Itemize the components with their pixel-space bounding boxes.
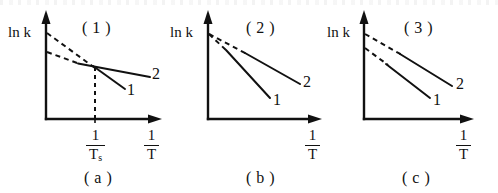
- arrhenius-plot-figure: ln k ( 1 ) 1 2 1 Ts 1 T ( a ): [0, 0, 498, 193]
- y-axis-arrowhead: [204, 10, 213, 24]
- panel-title: ( 2 ): [246, 20, 275, 36]
- x-axis-label-numerator: 1: [457, 128, 471, 144]
- y-axis-arrowhead: [360, 10, 369, 24]
- y-axis-label: ln k: [8, 25, 31, 40]
- curve-label-2: 2: [303, 74, 311, 90]
- x-axis-arrowhead: [148, 115, 162, 124]
- x-axis-label-denominator: T: [305, 147, 320, 163]
- curve-1-dashed-segment: [47, 33, 95, 68]
- curve-label-1: 1: [127, 82, 135, 98]
- x-axis-label: 1 T: [456, 128, 471, 163]
- curve-1-dashed-segment: [365, 48, 388, 65]
- curve-label-1: 1: [273, 92, 281, 108]
- x-axis-label-numerator: 1: [145, 128, 159, 144]
- y-axis-label: ln k: [327, 25, 350, 40]
- panel-title: ( 1 ): [82, 20, 111, 36]
- curve-2-dashed-segment: [365, 34, 402, 55]
- panel-b: ln k ( 2 ) 1 2 1 T ( b ): [162, 0, 328, 193]
- y-axis-arrowhead: [42, 10, 51, 24]
- curve-label-2: 2: [456, 76, 464, 92]
- x-tick-label-ts-numerator: 1: [89, 128, 103, 144]
- x-axis-arrowhead: [460, 115, 474, 124]
- x-tick-label-ts-subscript: s: [98, 152, 102, 163]
- x-axis-label-denominator: T: [456, 147, 471, 163]
- panel-subcaption: ( a ): [84, 170, 112, 186]
- panel-subcaption: ( c ): [402, 170, 430, 186]
- curve-1-solid-segment: [226, 50, 270, 98]
- x-axis-label-denominator: T: [144, 147, 159, 163]
- x-tick-label-ts-denominator: Ts: [86, 147, 105, 163]
- curve-2-dashed-segment: [47, 52, 80, 64]
- panel-c: ln k ( 3 ) 1 2 1 T ( c ): [322, 0, 488, 193]
- x-tick-label-ts: 1 Ts: [86, 128, 105, 163]
- x-axis-label: 1 T: [144, 128, 159, 163]
- x-axis-label-numerator: 1: [306, 128, 320, 144]
- curve-label-2: 2: [152, 66, 160, 82]
- panel-title: ( 3 ): [404, 20, 433, 36]
- x-axis-label: 1 T: [305, 128, 320, 163]
- panel-subcaption: ( b ): [246, 170, 275, 186]
- curve-label-1: 1: [433, 92, 441, 108]
- x-axis-arrowhead: [308, 115, 322, 124]
- panel-a: ln k ( 1 ) 1 2 1 Ts 1 T ( a ): [0, 0, 166, 193]
- y-axis-label: ln k: [170, 25, 193, 40]
- curve-2-solid-segment: [78, 64, 150, 78]
